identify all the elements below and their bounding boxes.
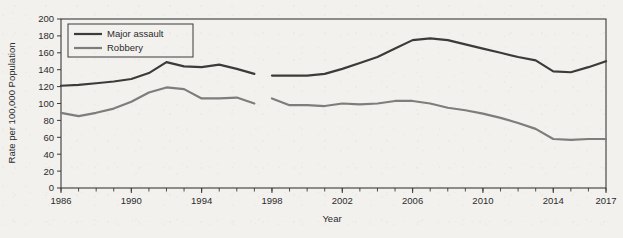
y-tick-label: 160 — [38, 47, 54, 58]
y-tick-label: 120 — [38, 81, 54, 92]
x-tick-label: 2006 — [402, 195, 423, 206]
x-tick-label: 1986 — [50, 195, 71, 206]
x-tick-label: 2014 — [543, 195, 564, 206]
y-axis-title: Rate per 100,000 Population — [6, 43, 17, 164]
y-tick-label: 200 — [38, 13, 54, 24]
x-tick-label: 1998 — [261, 195, 282, 206]
y-tick-label: 0 — [49, 182, 54, 193]
y-tick-label: 40 — [43, 149, 54, 160]
y-tick-label: 100 — [38, 98, 54, 109]
x-tick-label: 2017 — [595, 195, 616, 206]
y-tick-label: 60 — [43, 132, 54, 143]
chart-legend[interactable]: Major assaultRobbery — [68, 24, 193, 57]
x-tick-label: 2002 — [332, 195, 353, 206]
legend-label-robbery[interactable]: Robbery — [107, 42, 143, 53]
y-tick-label: 140 — [38, 64, 54, 75]
line-chart: 020406080100120140160180200 198619901994… — [0, 0, 623, 238]
x-tick-label: 1994 — [191, 195, 212, 206]
legend-label-major-assault[interactable]: Major assault — [107, 28, 164, 39]
y-tick-label: 180 — [38, 30, 54, 41]
x-tick-label: 1990 — [121, 195, 142, 206]
chart-figure: 020406080100120140160180200 198619901994… — [0, 0, 623, 238]
x-tick-label: 2010 — [472, 195, 493, 206]
x-axis-title: Year — [322, 213, 341, 224]
y-tick-label: 80 — [43, 115, 54, 126]
y-tick-label: 20 — [43, 166, 54, 177]
